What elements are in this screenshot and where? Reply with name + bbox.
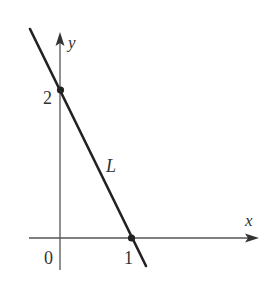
x-intercept-label: 1 [124, 248, 133, 268]
point-y-intercept [57, 86, 64, 93]
line-label: L [105, 156, 116, 176]
y-intercept-label: 2 [43, 88, 52, 108]
origin-label: 0 [44, 248, 53, 268]
y-axis [56, 32, 65, 270]
x-axis-label: x [244, 211, 253, 230]
coordinate-graph: y x 2 1 0 L [0, 0, 269, 289]
y-axis-label: y [66, 33, 76, 52]
line-L [30, 29, 146, 266]
point-x-intercept [128, 234, 135, 241]
x-axis [29, 234, 259, 243]
